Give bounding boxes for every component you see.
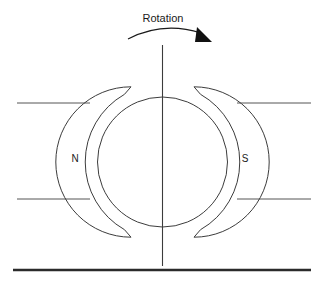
rotation-arrow	[128, 27, 212, 42]
south-pole-label: S	[242, 153, 249, 164]
rotation-label: Rotation	[143, 12, 184, 24]
north-pole-label: N	[71, 153, 78, 164]
rotation-arrow-head	[195, 27, 212, 42]
rotation-arrow-arc	[128, 28, 201, 39]
pole-piece-right	[194, 87, 269, 237]
pole-piece-left	[56, 87, 131, 237]
pole-piece-left-outline	[56, 87, 131, 237]
pole-piece-right-outline	[194, 87, 269, 237]
diagram-canvas: Rotation N S	[0, 0, 327, 287]
rotation-diagram: Rotation N S	[0, 0, 327, 287]
frame-lines	[17, 103, 311, 199]
